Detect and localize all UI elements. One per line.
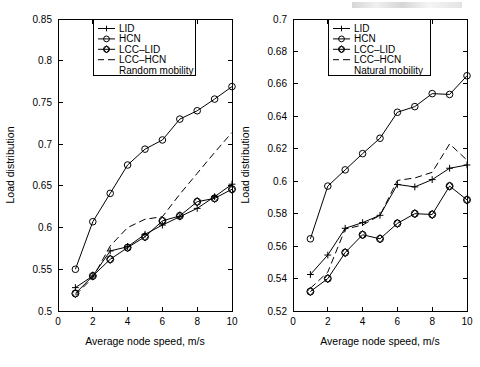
data-point — [464, 162, 471, 169]
x-tick-label: 10 — [461, 316, 473, 327]
data-point — [307, 288, 314, 295]
x-tick-label: 6 — [160, 316, 166, 327]
figure-container: 02468100.50.550.60.650.70.750.80.85Avera… — [0, 0, 480, 367]
y-axis-label: Load distribution — [4, 126, 16, 203]
legend-label: HCN — [119, 33, 141, 44]
y-tick-label: 0.5 — [38, 306, 52, 317]
x-tick-label: 4 — [125, 316, 131, 327]
y-tick-label: 0.65 — [33, 180, 53, 191]
data-point — [394, 181, 401, 188]
chart-svg: 02468100.50.550.60.650.70.750.80.85Avera… — [0, 0, 480, 367]
y-tick-label: 0.56 — [268, 241, 288, 252]
x-tick-label: 0 — [55, 316, 61, 327]
x-tick-label: 10 — [226, 316, 238, 327]
series-line-LCC-LID — [75, 189, 232, 293]
y-tick-label: 0.54 — [268, 273, 288, 284]
y-tick-label: 0.7 — [273, 14, 287, 25]
legend-label: LID — [119, 23, 135, 34]
series-line-LCC-LID — [310, 186, 467, 291]
x-axis-label: Average node speed, m/s — [85, 335, 204, 347]
chart-panel-left: 02468100.50.550.60.650.70.750.80.85Avera… — [4, 14, 238, 347]
y-tick-label: 0.58 — [268, 208, 288, 219]
x-tick-label: 8 — [194, 316, 200, 327]
legend-label: HCN — [354, 33, 376, 44]
legend-label: LCC–HCN — [119, 54, 166, 65]
y-tick-label: 0.68 — [268, 46, 288, 57]
x-tick-label: 2 — [90, 316, 96, 327]
series-markers-HCN — [307, 72, 470, 242]
series-line-HCN — [310, 76, 467, 239]
x-axis-label: Average node speed, m/s — [320, 335, 439, 347]
y-tick-label: 0.8 — [38, 55, 52, 66]
data-point — [429, 176, 436, 183]
x-tick-label: 0 — [290, 316, 296, 327]
series-line-HCN — [75, 87, 232, 270]
x-tick-label: 2 — [325, 316, 331, 327]
chart-panel-right: 02468100.520.540.560.580.60.620.640.660.… — [239, 14, 473, 347]
legend-subtitle: Random mobility — [119, 65, 193, 76]
y-tick-label: 0.66 — [268, 78, 288, 89]
data-point — [307, 236, 314, 243]
y-tick-label: 0.6 — [38, 222, 52, 233]
legend-label: LCC–HCN — [354, 54, 401, 65]
y-tick-label: 0.85 — [33, 14, 53, 25]
y-axis-label: Load distribution — [239, 126, 251, 203]
legend-subtitle: Natural mobility — [354, 65, 423, 76]
y-tick-label: 0.55 — [33, 264, 53, 275]
series-markers-HCN — [72, 83, 235, 272]
series-markers-LID — [307, 162, 470, 278]
legend-label: LCC–LID — [119, 44, 160, 55]
y-tick-label: 0.64 — [268, 111, 288, 122]
data-point — [411, 184, 418, 191]
x-tick-label: 8 — [429, 316, 435, 327]
y-tick-label: 0.62 — [268, 143, 288, 154]
legend: LIDHCNLCC–LIDLCC–HCNNatural mobility — [328, 19, 430, 76]
x-tick-label: 6 — [395, 316, 401, 327]
legend-label: LID — [354, 23, 370, 34]
legend: LIDHCNLCC–LIDLCC–HCNRandom mobility — [93, 19, 195, 76]
series-line-LCC-HCN — [310, 144, 467, 288]
y-tick-label: 0.75 — [33, 97, 53, 108]
data-point — [377, 212, 384, 219]
x-tick-label: 4 — [360, 316, 366, 327]
data-point — [446, 165, 453, 172]
legend-label: LCC–LID — [354, 44, 395, 55]
series-markers-LCC-LID — [72, 185, 236, 298]
y-tick-label: 0.6 — [273, 176, 287, 187]
y-tick-label: 0.52 — [268, 306, 288, 317]
y-tick-label: 0.7 — [38, 139, 52, 150]
